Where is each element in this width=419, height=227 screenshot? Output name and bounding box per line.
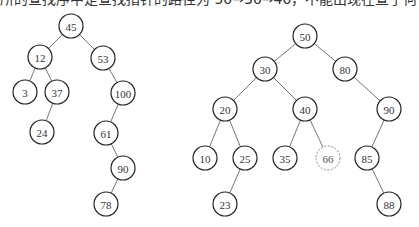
tree-edge: [372, 120, 384, 147]
left-tree: 45125333710024619078: [13, 14, 135, 216]
node-label: 25: [240, 153, 252, 165]
binary-search-trees-diagram: 4512533371002461907850308020409010253566…: [0, 0, 419, 227]
node-label: 61: [101, 128, 112, 140]
node-label: 45: [66, 21, 78, 33]
tree-node-85: 85: [355, 146, 379, 170]
tree-edge: [230, 169, 240, 193]
tree-node-88: 88: [377, 192, 401, 216]
tree-edge: [45, 68, 52, 81]
node-label: 53: [98, 53, 110, 65]
tree-node-35: 35: [273, 146, 297, 170]
tree-edge: [109, 68, 117, 82]
tree-node-100: 100: [111, 81, 135, 105]
tree-edge: [290, 120, 301, 147]
tree-edge: [233, 77, 256, 100]
node-label: 80: [340, 64, 352, 76]
node-label: 24: [37, 127, 49, 139]
tree-node-24: 24: [30, 120, 54, 144]
node-label: 88: [384, 199, 396, 211]
node-label: 37: [52, 87, 64, 99]
node-label: 20: [220, 104, 232, 116]
tree-edge: [310, 120, 323, 147]
tree-edge: [274, 44, 295, 62]
node-label: 40: [300, 104, 312, 116]
tree-edge: [111, 179, 118, 193]
tree-node-40: 40: [293, 97, 317, 121]
tree-node-90: 90: [377, 97, 401, 121]
node-label: 78: [101, 199, 113, 211]
tree-node-23: 23: [213, 192, 237, 216]
tree-edge: [230, 120, 241, 147]
tree-node-25: 25: [233, 146, 257, 170]
tree-edge: [273, 77, 296, 100]
node-label: 30: [260, 64, 272, 76]
node-label: 66: [323, 153, 335, 165]
tree-edge: [46, 103, 53, 121]
tree-node-90: 90: [111, 156, 135, 180]
tree-node-3: 3: [13, 80, 37, 104]
tree-node-80: 80: [333, 57, 357, 81]
node-label: 90: [118, 163, 130, 175]
tree-node-37: 37: [45, 80, 69, 104]
tree-node-53: 53: [91, 46, 115, 70]
tree-edge: [79, 34, 94, 49]
node-label: 85: [362, 153, 374, 165]
node-label: 12: [35, 52, 46, 64]
node-label: 50: [300, 31, 312, 43]
tree-edge: [30, 68, 36, 81]
tree-edge: [372, 169, 384, 193]
tree-node-20: 20: [213, 97, 237, 121]
tree-edge: [111, 104, 119, 122]
tree-edge: [111, 144, 118, 157]
node-label: 100: [115, 88, 132, 100]
tree-node-12: 12: [28, 45, 52, 69]
node-label: 35: [280, 153, 292, 165]
tree-node-30: 30: [253, 57, 277, 81]
tree-node-66-dashed: 66: [316, 146, 340, 170]
tree-edge: [354, 77, 380, 101]
tree-edge: [210, 120, 221, 147]
tree-node-61: 61: [94, 121, 118, 145]
tree-edge: [48, 34, 62, 48]
tree-node-78: 78: [94, 192, 118, 216]
node-label: 90: [384, 104, 396, 116]
tree-edge: [314, 44, 335, 62]
node-label: 23: [220, 199, 232, 211]
node-label: 10: [200, 153, 212, 165]
tree-node-45: 45: [59, 14, 83, 38]
right-tree: 50308020409010253566852388: [193, 24, 401, 216]
tree-node-10: 10: [193, 146, 217, 170]
tree-node-50: 50: [293, 24, 317, 48]
node-label: 3: [22, 87, 28, 99]
